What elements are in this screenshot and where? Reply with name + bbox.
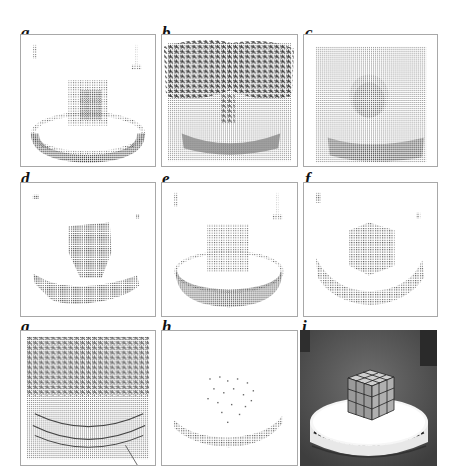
panel-e-vector-field [161, 182, 298, 317]
panel-d-vector-field [20, 182, 156, 317]
vector-field-plot-e [162, 183, 297, 316]
panel-i-photograph [300, 330, 437, 466]
rubiks-cube [348, 370, 394, 420]
turntable-cube-photo [300, 330, 437, 466]
panel-h-vector-field [161, 330, 298, 466]
panel-g-vector-field [20, 330, 156, 466]
vector-field-plot-h [162, 331, 297, 465]
panel-a-vector-field [20, 34, 156, 167]
panel-b-vector-field [161, 34, 298, 167]
vector-field-plot-c [304, 35, 437, 166]
vector-field-plot-b [162, 35, 297, 166]
vector-field-plot-g [21, 331, 155, 465]
panel-f-vector-field [303, 182, 438, 317]
vector-field-plot-a [21, 35, 155, 166]
vector-field-plot-d [21, 183, 155, 316]
panel-c-vector-field [303, 34, 438, 167]
vector-field-plot-f [304, 183, 437, 316]
